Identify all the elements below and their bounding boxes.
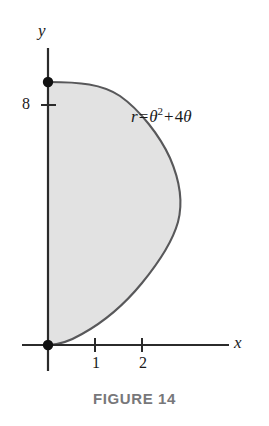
equation-theta: θ [149, 107, 157, 126]
x-tick-label-2: 2 [136, 355, 150, 371]
curve-equation-annotation: r=θ2+4θ [131, 108, 192, 125]
equation-lhs: r [131, 107, 138, 126]
equation-equals: = [138, 107, 150, 126]
figure-caption: FIGURE 14 [0, 390, 269, 407]
equation-coefficient: 4 [175, 107, 184, 126]
x-axis-label: x [234, 334, 242, 351]
y-intercept-point-marker [43, 77, 53, 87]
polar-plot [0, 0, 269, 426]
equation-plus: + [163, 107, 175, 126]
figure-container: y x 8 1 2 r=θ2+4θ FIGURE 14 [0, 0, 269, 426]
equation-theta-second: θ [183, 107, 191, 126]
y-axis-label: y [38, 22, 46, 39]
x-tick-label-1: 1 [89, 355, 103, 371]
y-tick-label-8: 8 [22, 96, 30, 112]
origin-point-marker [43, 340, 53, 350]
